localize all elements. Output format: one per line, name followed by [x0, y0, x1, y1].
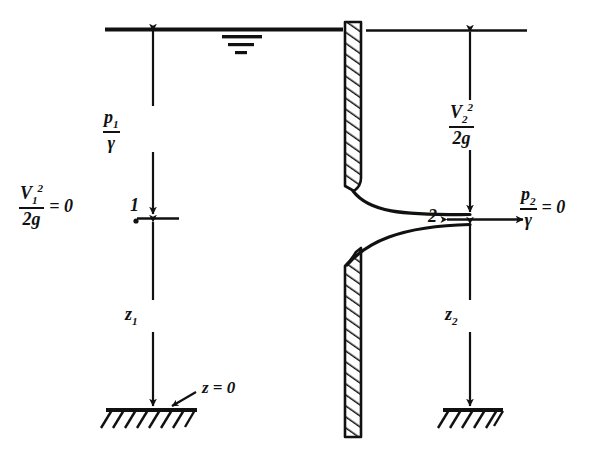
fraction-p2: p2 γ: [519, 185, 538, 230]
hatched-tank-wall: [345, 22, 361, 437]
p1-denominator: γ: [102, 133, 121, 153]
v2-head-numerator: V22: [448, 102, 475, 126]
p2-equals-zero: = 0: [542, 197, 566, 218]
label-v2-velocity-head: V22 2g: [448, 102, 475, 148]
label-z2: z2: [445, 305, 458, 327]
label-datum-z-equals-zero: z = 0: [202, 379, 235, 396]
right-ground-datum-hatched: [438, 410, 503, 428]
label-v1-velocity-head: V12 2g = 0: [18, 183, 73, 229]
left-ground-datum-hatched: [101, 410, 197, 428]
label-z1: z1: [125, 305, 138, 327]
water-level-symbol: [222, 35, 262, 54]
p2-numerator: p2: [519, 185, 538, 208]
diagram-svg: [0, 0, 590, 457]
p2-denominator: γ: [519, 210, 538, 230]
figure-canvas: V12 2g = 0 p1 γ 1 z1 z = 0 V22 2g p2 γ =…: [0, 0, 590, 457]
converging-nozzle-outlet: [347, 191, 470, 265]
datum-callout-arrow: [172, 392, 196, 406]
v1-head-numerator: V12: [18, 183, 45, 207]
v1-head-denominator: 2g: [18, 209, 45, 229]
point-1-tick: [133, 218, 179, 223]
fraction-v1-head: V12 2g: [18, 183, 45, 229]
label-p1-pressure-head: p1 γ: [102, 108, 121, 153]
p1-numerator: p1: [102, 108, 121, 131]
label-point-2: 2: [428, 207, 437, 225]
label-point-1: 1: [130, 196, 139, 214]
v2-head-denominator: 2g: [448, 128, 475, 148]
label-p2-pressure-head: p2 γ = 0: [519, 185, 565, 230]
v1-head-equals-zero: = 0: [49, 196, 73, 217]
